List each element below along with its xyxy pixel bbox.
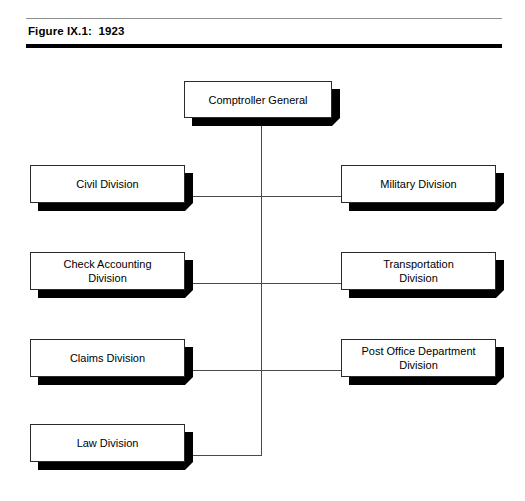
figure-container: Figure IX.1: 1923 Comptroller General Ci… [0,0,525,501]
node-face: Post Office Department Division [341,339,496,377]
node-claims-division[interactable]: Claims Division [30,339,185,377]
node-face: Claims Division [30,339,185,377]
node-face: Law Division [30,424,185,462]
connector-row-4 [185,455,262,456]
node-law-division[interactable]: Law Division [30,424,185,462]
node-face: Civil Division [30,165,185,203]
node-civil-division[interactable]: Civil Division [30,165,185,203]
node-face: Comptroller General [184,81,332,118]
node-transportation-division[interactable]: Transportation Division [341,252,496,290]
title-rule-top [26,18,502,19]
node-label: Check Accounting Division [57,257,157,285]
node-label: Comptroller General [202,93,313,107]
node-label: Law Division [71,436,145,450]
connector-row-1 [185,196,341,197]
node-label: Transportation Division [377,257,460,285]
connector-row-3 [185,370,341,371]
title-rule-bottom [26,44,502,48]
node-label: Civil Division [70,177,144,191]
node-military-division[interactable]: Military Division [341,165,496,203]
node-comptroller-general[interactable]: Comptroller General [184,81,332,118]
connector-row-2 [185,283,341,284]
node-post-office-department-division[interactable]: Post Office Department Division [341,339,496,377]
node-face: Check Accounting Division [30,252,185,290]
node-check-accounting-division[interactable]: Check Accounting Division [30,252,185,290]
node-face: Military Division [341,165,496,203]
trunk-vertical-connector [261,118,262,456]
node-label: Post Office Department Division [355,344,481,372]
node-label: Military Division [374,177,462,191]
node-face: Transportation Division [341,252,496,290]
node-label: Claims Division [64,351,151,365]
figure-title: Figure IX.1: 1923 [28,23,124,39]
